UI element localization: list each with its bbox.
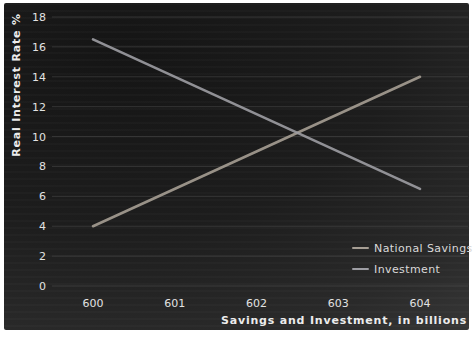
series-line-national-savings: [93, 77, 420, 226]
x-tick-label: 604: [410, 297, 431, 310]
legend-item-national-savings: National Savings: [352, 241, 473, 255]
national-savings-line-swatch: [352, 247, 369, 249]
chart-frame: 024681012141618600601602603604 Real Inte…: [0, 0, 473, 341]
legend: National Savings Investment: [352, 241, 473, 276]
investment-line-swatch: [352, 268, 369, 270]
y-tick-label: 6: [39, 190, 46, 203]
y-tick-label: 12: [32, 101, 46, 114]
y-tick-label: 2: [39, 250, 46, 263]
legend-label-investment: Investment: [374, 263, 440, 276]
chart-canvas: 024681012141618600601602603604: [0, 0, 473, 341]
y-tick-label: 0: [39, 280, 46, 293]
y-tick-label: 8: [39, 160, 46, 173]
legend-item-investment: Investment: [352, 262, 473, 276]
x-tick-label: 600: [83, 297, 104, 310]
x-axis-title: Savings and Investment, in billions: [221, 314, 467, 327]
legend-label-national-savings: National Savings: [374, 242, 473, 255]
x-tick-label: 603: [328, 297, 349, 310]
y-tick-label: 14: [32, 71, 46, 84]
y-tick-label: 18: [32, 11, 46, 24]
x-tick-label: 601: [164, 297, 185, 310]
y-tick-label: 10: [32, 131, 46, 144]
x-tick-label: 602: [246, 297, 267, 310]
y-tick-label: 4: [39, 220, 46, 233]
y-tick-label: 16: [32, 41, 46, 54]
y-axis-title: Real Interest Rate %: [10, 13, 23, 157]
